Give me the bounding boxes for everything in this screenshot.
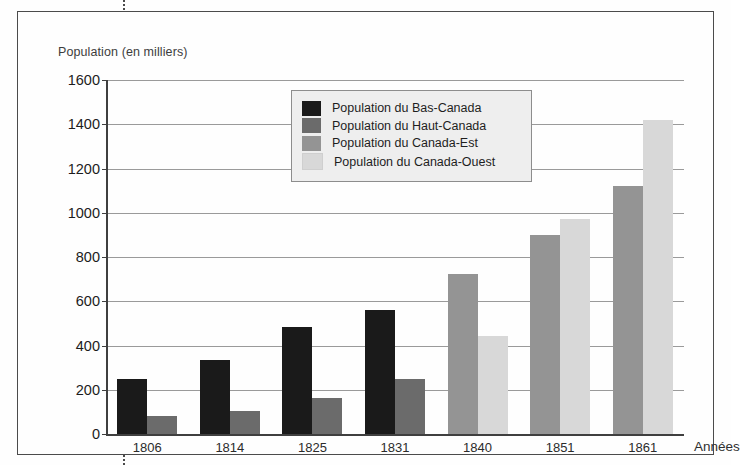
bar-group-1806: [117, 80, 177, 434]
legend-item: Population du Bas-Canada: [302, 101, 521, 116]
registration-mark-top: [123, 0, 125, 11]
x-tick-label-1851: 1851: [546, 440, 575, 455]
bar: [395, 379, 425, 434]
y-tick-mark-1600: [102, 80, 107, 81]
y-axis-tick-labels: 16001400120010008006004002000: [38, 80, 100, 434]
bar: [560, 219, 590, 434]
y-tick-mark-600: [102, 301, 107, 302]
legend-item: Population du Canada-Est: [302, 136, 521, 151]
legend-item-label: Population du Canada-Ouest: [334, 155, 495, 169]
bar: [200, 360, 230, 434]
legend-item-label: Population du Canada-Est: [332, 136, 478, 150]
legend-swatch-icon: [302, 118, 321, 133]
y-tick-label-400: 400: [76, 338, 100, 354]
bar-group-1814: [200, 80, 260, 434]
bar: [282, 327, 312, 434]
bar: [643, 120, 673, 434]
y-tick-mark-1400: [102, 124, 107, 125]
y-tick-mark-200: [102, 390, 107, 391]
y-tick-mark-1000: [102, 213, 107, 214]
y-tick-label-1400: 1400: [68, 116, 100, 132]
legend-swatch-icon: [302, 136, 321, 151]
x-tick-label-1814: 1814: [215, 440, 244, 455]
x-tick-label-1831: 1831: [381, 440, 410, 455]
bar: [478, 336, 508, 434]
bar: [530, 235, 560, 434]
legend-item-label: Population du Haut-Canada: [332, 119, 486, 133]
bar: [312, 398, 342, 435]
legend-item-label: Population du Bas-Canada: [332, 101, 481, 115]
y-tick-label-1600: 1600: [68, 72, 100, 88]
legend-item: Population du Haut-Canada: [302, 118, 521, 133]
x-tick-label-1806: 1806: [133, 440, 162, 455]
chart-frame: Population (en milliers) 160014001200100…: [17, 11, 714, 455]
y-axis-title: Population (en milliers): [58, 45, 188, 59]
chart-legend: Population du Bas-CanadaPopulation du Ha…: [291, 90, 532, 182]
x-tick-label-1861: 1861: [628, 440, 657, 455]
legend-swatch-icon: [302, 153, 323, 170]
y-tick-mark-400: [102, 346, 107, 347]
bar: [365, 310, 395, 434]
bar: [448, 274, 478, 434]
x-axis-line: [106, 434, 684, 436]
legend-item: Population du Canada-Ouest: [302, 153, 521, 170]
x-tick-label-1825: 1825: [298, 440, 327, 455]
bar: [147, 416, 177, 434]
y-tick-mark-800: [102, 257, 107, 258]
y-tick-mark-1200: [102, 169, 107, 170]
y-tick-label-200: 200: [76, 382, 100, 398]
bar-group-1851: [530, 80, 590, 434]
x-axis-title: Années: [694, 439, 740, 454]
bar: [613, 186, 643, 434]
y-tick-label-600: 600: [76, 293, 100, 309]
y-tick-label-1000: 1000: [68, 205, 100, 221]
y-tick-label-0: 0: [92, 426, 100, 442]
bar: [230, 411, 260, 434]
x-tick-label-1840: 1840: [463, 440, 492, 455]
x-axis-tick-labels: 1806181418251831184018511861: [106, 440, 684, 460]
y-tick-label-1200: 1200: [68, 161, 100, 177]
legend-swatch-icon: [302, 101, 321, 116]
bar-group-1861: [613, 80, 673, 434]
y-tick-label-800: 800: [76, 249, 100, 265]
y-tick-mark-0: [102, 434, 107, 435]
bar: [117, 379, 147, 434]
